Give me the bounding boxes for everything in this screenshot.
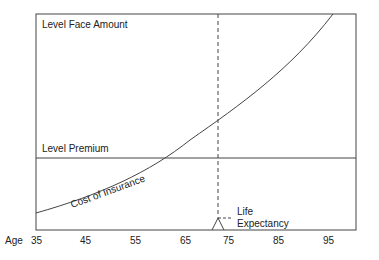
age-axis-label: Age — [5, 235, 23, 246]
life-label: Life — [237, 206, 254, 217]
cost-label: Cost of Insurance — [69, 173, 147, 210]
life-expectancy-marker — [212, 218, 224, 230]
tick-45: 45 — [80, 235, 92, 246]
face-amount-label: Level Face Amount — [42, 19, 128, 30]
tick-55: 55 — [130, 235, 142, 246]
expectancy-label: Expectancy — [237, 218, 289, 229]
premium-label: Level Premium — [42, 143, 109, 154]
tick-65: 65 — [180, 235, 192, 246]
chart: Level Face Amount Level Premium Cost of … — [0, 0, 379, 260]
cost-of-insurance-curve — [36, 14, 333, 213]
tick-35: 35 — [31, 235, 43, 246]
tick-95: 95 — [323, 235, 335, 246]
tick-85: 85 — [273, 235, 285, 246]
tick-75: 75 — [223, 235, 235, 246]
